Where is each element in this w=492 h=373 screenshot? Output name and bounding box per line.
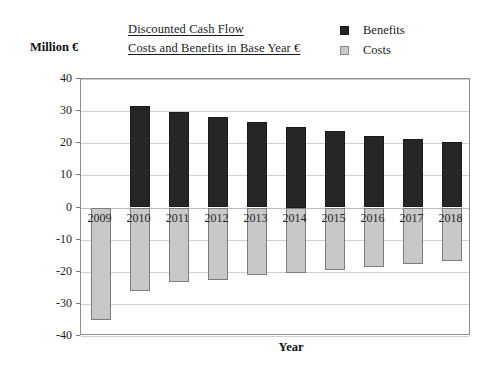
- bar-benefits-2018: [442, 142, 462, 207]
- legend-label-costs: Costs: [363, 43, 391, 58]
- y-axis-unit-label: Million €: [30, 40, 78, 55]
- bar-costs-2013: [247, 208, 267, 275]
- bar-benefits-2016: [364, 136, 384, 208]
- bar-benefits-2013: [247, 122, 267, 207]
- legend-swatch-benefits-icon: [340, 26, 349, 35]
- x-axis-title: Year: [0, 340, 492, 355]
- bar-benefits-2015: [325, 131, 345, 207]
- bar-benefits-2010: [130, 106, 150, 207]
- y-tick-label--30: -30: [28, 297, 72, 309]
- bar-benefits-2011: [169, 112, 189, 207]
- legend-label-benefits: Benefits: [363, 23, 405, 38]
- gridline--30: [81, 304, 469, 305]
- bar-costs-2015: [325, 208, 345, 270]
- bar-costs-2017: [403, 208, 423, 265]
- bar-costs-2012: [208, 208, 228, 280]
- bar-costs-2011: [169, 208, 189, 283]
- bar-costs-2016: [364, 208, 384, 268]
- gridline-40: [81, 79, 469, 80]
- chart-title-line-1: Discounted Cash Flow: [128, 20, 338, 39]
- y-tick-label-10: 10: [28, 168, 72, 180]
- bar-costs-2010: [130, 208, 150, 292]
- y-tick-label-0: 0: [28, 201, 72, 213]
- plot-area: [80, 78, 470, 335]
- chart-title-line-2: Costs and Benefits in Base Year €: [128, 39, 338, 58]
- bar-benefits-2012: [208, 117, 228, 208]
- bar-costs-2018: [442, 208, 462, 261]
- bar-benefits-2017: [403, 139, 423, 207]
- legend-item-costs: Costs: [340, 40, 405, 60]
- y-tick-label-30: 30: [28, 104, 72, 116]
- chart-legend: Benefits Costs: [340, 20, 405, 60]
- bar-costs-2014: [286, 208, 306, 274]
- y-tick-label-20: 20: [28, 136, 72, 148]
- chart-root: Discounted Cash Flow Costs and Benefits …: [0, 0, 492, 373]
- bar-benefits-2014: [286, 127, 306, 207]
- legend-swatch-costs-icon: [340, 46, 349, 55]
- y-tick-label--10: -10: [28, 233, 72, 245]
- x-axis-title-text: Year: [279, 340, 304, 354]
- y-tick-label--20: -20: [28, 265, 72, 277]
- chart-title: Discounted Cash Flow Costs and Benefits …: [128, 20, 338, 58]
- y-tick-mark--40: [76, 335, 80, 336]
- bar-costs-2009: [91, 208, 111, 320]
- y-tick-label-40: 40: [28, 72, 72, 84]
- legend-item-benefits: Benefits: [340, 20, 405, 40]
- gridline--40: [81, 336, 469, 337]
